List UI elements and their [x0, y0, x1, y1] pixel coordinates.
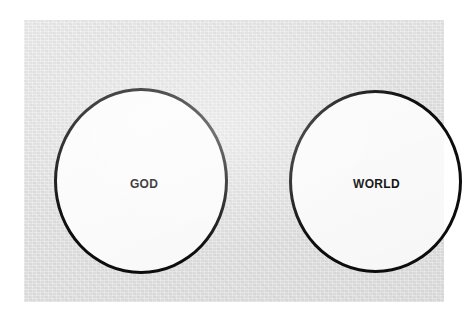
circle-world: World [289, 90, 462, 273]
circle-world-label: World [353, 174, 400, 191]
circle-god: God [54, 88, 228, 274]
diagram-panel: God World [24, 20, 444, 302]
figure-container: God World [0, 0, 471, 328]
circle-god-label: God [130, 174, 158, 191]
